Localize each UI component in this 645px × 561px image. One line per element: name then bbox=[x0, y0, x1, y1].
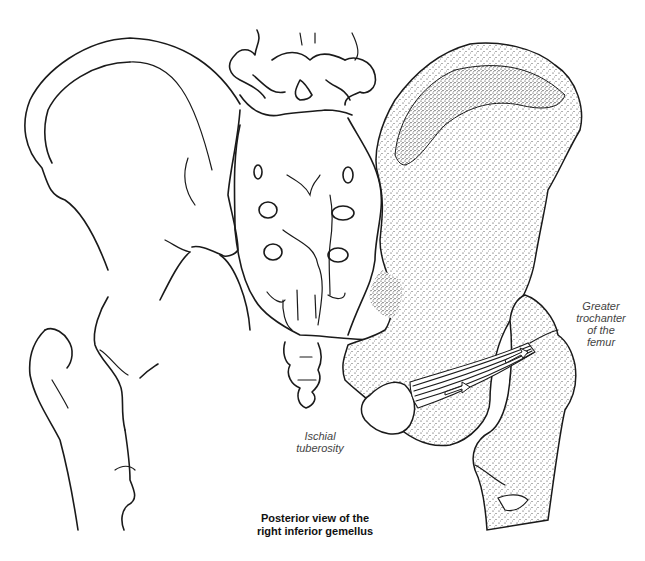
label-ischial-tuberosity: Ischial tuberosity bbox=[275, 430, 365, 454]
figure-caption: Posterior view of the right inferior gem… bbox=[215, 512, 415, 538]
left-femur bbox=[30, 297, 158, 530]
coccyx bbox=[284, 342, 321, 408]
label-line: femur bbox=[556, 336, 645, 348]
lumbar-vertebrae bbox=[230, 30, 376, 116]
caption-line-1: Posterior view of the bbox=[215, 512, 415, 525]
label-greater-trochanter: Greater trochanter of the femur bbox=[556, 300, 645, 348]
anatomy-illustration bbox=[0, 0, 645, 561]
left-ilium bbox=[25, 38, 250, 330]
sacrum bbox=[234, 118, 381, 340]
caption-line-2: right inferior gemellus bbox=[215, 525, 415, 538]
label-line: Ischial bbox=[275, 430, 365, 442]
label-line: trochanter bbox=[556, 312, 645, 324]
label-line: tuberosity bbox=[275, 442, 365, 454]
label-line: of the bbox=[556, 324, 645, 336]
label-line: Greater bbox=[556, 300, 645, 312]
